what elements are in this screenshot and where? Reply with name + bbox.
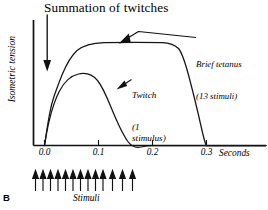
annotation-twitch-name: Twitch <box>132 90 166 101</box>
annotation-brief-tetanus-sublabel: (13 stimuli) <box>196 91 242 102</box>
x-tick-label-0: 0.0 <box>32 147 58 157</box>
annotation-twitch-sublabel: (1 stimulus) <box>132 122 166 144</box>
panel-letter: B <box>3 193 10 203</box>
stimulus-arrow-10 <box>100 171 106 192</box>
stimulus-arrow-1 <box>33 171 39 192</box>
stimulus-arrow-11 <box>110 171 116 192</box>
stimulus-arrow-4 <box>55 171 61 192</box>
tetanus-pointer-arrow-icon <box>119 32 196 44</box>
chart-title: Summation of twitches <box>44 1 168 15</box>
stimulus-arrow-3 <box>48 171 54 192</box>
annotation-twitch: Twitch (1 stimulus) <box>132 68 166 166</box>
stimuli-arrows-group <box>33 171 136 192</box>
x-axis-label: Seconds <box>219 148 250 158</box>
stimulus-arrow-9 <box>93 171 99 192</box>
stimulus-arrow-7 <box>78 171 84 192</box>
stimulus-arrow-6 <box>70 171 76 192</box>
stimulus-arrow-12 <box>120 171 126 192</box>
annotation-brief-tetanus: Brief tetanus (13 stimuli) <box>196 37 242 124</box>
twitch-pointer-arrow-icon <box>117 80 132 90</box>
annotation-brief-tetanus-name: Brief tetanus <box>196 59 242 70</box>
stimuli-label: Stimuli <box>73 193 100 203</box>
x-tick-label-3: 0.3 <box>194 147 220 157</box>
stimulus-arrow-2 <box>40 171 46 192</box>
stimulus-arrow-5 <box>63 171 69 192</box>
stimulus-arrow-13 <box>130 171 136 192</box>
y-axis-label: Isometric tension <box>7 26 17 112</box>
figure-panel-b: Summation of twitches Isometric tension … <box>0 0 268 210</box>
stimulus-arrow-8 <box>85 171 91 192</box>
title-pointer-arrow-icon <box>43 15 51 72</box>
x-tick-label-1: 0.1 <box>86 147 112 157</box>
